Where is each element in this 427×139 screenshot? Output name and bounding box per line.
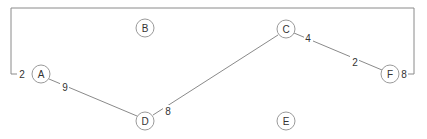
node-c: C: [277, 20, 295, 38]
weight-a-d-at-a: 9: [60, 81, 69, 93]
graph-diagram: 2 9 8 4 2 8 A B C D E F: [0, 0, 427, 139]
svg-text:8: 8: [165, 106, 171, 117]
svg-text:A: A: [38, 69, 45, 80]
node-e: E: [277, 112, 295, 130]
edge-d-c: [153, 35, 278, 115]
svg-text:2: 2: [352, 57, 358, 68]
weight-c-f-at-f: 2: [350, 56, 359, 68]
svg-text:2: 2: [19, 69, 25, 80]
node-b: B: [136, 19, 154, 37]
svg-text:9: 9: [62, 82, 68, 93]
weight-a-f-at-f: 8: [399, 68, 408, 80]
svg-text:B: B: [142, 23, 149, 34]
node-d: D: [136, 112, 154, 130]
svg-text:C: C: [282, 24, 289, 35]
weight-d-c-at-d: 8: [163, 105, 172, 117]
weight-a-f-at-a: 2: [17, 68, 26, 80]
node-f: F: [381, 65, 399, 83]
svg-text:E: E: [283, 116, 290, 127]
svg-text:8: 8: [401, 69, 407, 80]
weight-c-f-at-c: 4: [304, 32, 313, 44]
svg-text:F: F: [387, 69, 393, 80]
node-a: A: [32, 65, 50, 83]
svg-text:D: D: [141, 116, 148, 127]
svg-text:4: 4: [305, 33, 311, 44]
